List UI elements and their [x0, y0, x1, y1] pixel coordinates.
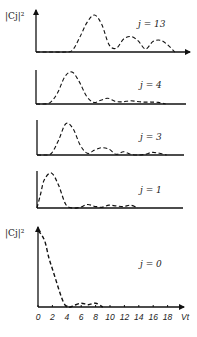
panel-j3: j = 3 — [37, 120, 184, 155]
panel-label: j = 1 — [138, 185, 162, 195]
panel-j0: |Cj|² j = 0 024681012141618 Vt — [5, 227, 190, 322]
panel-j1: j = 1 — [37, 171, 183, 208]
x-tick-label: 14 — [134, 312, 144, 322]
x-tick-label: 16 — [148, 312, 158, 322]
x-tick-label: 12 — [120, 312, 130, 322]
chart-figure: |Cj|² j = 13 j = 4 j = 3 j = 1 |Cj|² j =… — [0, 0, 197, 337]
panel-label: j = 3 — [138, 132, 162, 142]
x-tick-label: 6 — [79, 312, 84, 322]
panel-j13: |Cj|² j = 13 — [5, 10, 190, 52]
panel-label: j = 4 — [138, 80, 162, 90]
x-tick-label: 18 — [163, 312, 173, 322]
x-tick-label: 2 — [49, 312, 55, 322]
x-tick-label: 10 — [105, 312, 115, 322]
x-tick-label: 0 — [36, 312, 41, 322]
panel-label: j = 13 — [136, 19, 166, 29]
x-tick-label: 8 — [93, 312, 98, 322]
series-curve — [38, 231, 103, 307]
y-axis-label: |Cj|² — [5, 228, 25, 239]
series-curve — [37, 173, 138, 208]
x-tick-label: 4 — [64, 312, 69, 322]
panel-label: j = 0 — [138, 259, 162, 269]
panel-j4: j = 4 — [36, 70, 186, 104]
y-axis-label: |Cj|² — [5, 11, 25, 22]
x-axis-label: Vt — [181, 312, 190, 322]
